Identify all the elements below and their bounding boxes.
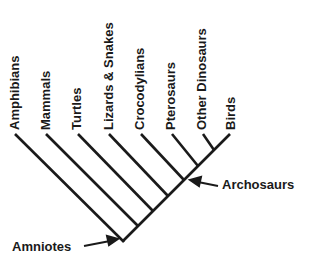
archosaurs-arrowhead bbox=[190, 177, 201, 186]
taxon-label-turtles: Turtles bbox=[70, 88, 83, 130]
taxon-label-crocodylians: Crocodylians bbox=[133, 48, 146, 130]
node-label-archosaurs: Archosaurs bbox=[222, 177, 294, 192]
branch-turtles bbox=[78, 134, 153, 211]
taxon-label-birds: Birds bbox=[224, 97, 237, 130]
cladogram: Amphibians Mammals Turtles Lizards & Sna… bbox=[0, 0, 311, 260]
taxon-label-lizards-snakes: Lizards & Snakes bbox=[102, 22, 115, 130]
node-label-amniotes: Amniotes bbox=[12, 239, 71, 254]
amniotes-arrow bbox=[84, 241, 110, 246]
spine-line bbox=[123, 134, 230, 241]
taxon-label-pterosaurs: Pterosaurs bbox=[164, 62, 177, 130]
branch-other-dinosaurs bbox=[203, 134, 214, 150]
branch-lizards-snakes bbox=[109, 134, 168, 196]
archosaurs-arrow bbox=[198, 182, 218, 186]
branch-amphibians bbox=[15, 134, 124, 242]
amniotes-arrowhead bbox=[107, 236, 118, 245]
taxon-label-mammals: Mammals bbox=[39, 71, 52, 130]
cladogram-lines bbox=[0, 0, 311, 260]
taxon-label-amphibians: Amphibians bbox=[8, 56, 21, 130]
branch-pterosaurs bbox=[172, 134, 198, 166]
taxon-label-other-dinosaurs: Other Dinosaurs bbox=[195, 28, 208, 130]
